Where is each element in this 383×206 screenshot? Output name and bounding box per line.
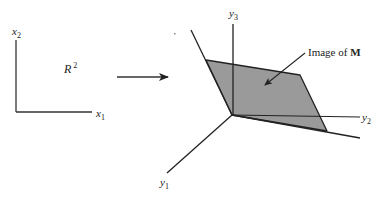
linear-map-diagram: x2 x1 R2 y3 y2 y1 (0, 0, 383, 206)
y2-axis-label: y2 (361, 111, 371, 126)
y1-axis (167, 115, 232, 173)
y3-axis-label: y3 (228, 7, 238, 22)
codomain-r3-group: y3 y2 y1 Image of M (159, 7, 371, 191)
y1-axis-label: y1 (159, 176, 169, 191)
image-of-m-plane (206, 60, 327, 131)
domain-r2-group: x2 x1 R2 (11, 25, 105, 122)
x2-axis-label: x2 (11, 25, 21, 40)
r2-space-label: R2 (63, 61, 77, 76)
image-of-m-label: Image of M (308, 46, 361, 58)
x1-axis-label: x1 (95, 107, 105, 122)
scan-speck (174, 33, 176, 35)
